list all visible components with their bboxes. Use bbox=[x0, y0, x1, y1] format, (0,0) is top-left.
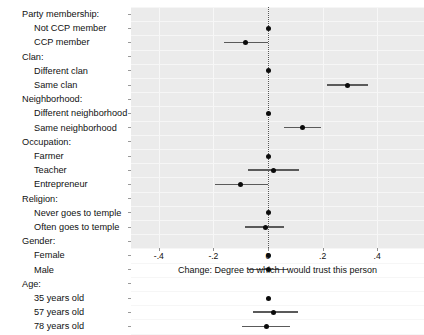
category-label: Different neighborhood bbox=[34, 106, 125, 120]
category-label: Different clan bbox=[34, 64, 125, 78]
category-label: Often goes to temple bbox=[34, 220, 125, 234]
estimate-row bbox=[131, 177, 424, 191]
estimate-row bbox=[131, 106, 424, 120]
row-tick-mark bbox=[128, 326, 131, 327]
estimate-row bbox=[131, 149, 424, 163]
estimate-row bbox=[131, 319, 424, 333]
estimate-row bbox=[131, 35, 424, 49]
estimate-row bbox=[131, 206, 424, 220]
x-axis-title: Change: Degree to which I would trust th… bbox=[131, 265, 424, 275]
x-axis-tick-label: -.2 bbox=[208, 251, 218, 261]
x-axis-tick-label: .2 bbox=[319, 251, 326, 261]
plot-panel bbox=[131, 7, 424, 248]
category-label: 35 years old bbox=[34, 291, 125, 305]
estimate-row bbox=[131, 305, 424, 319]
estimate-point bbox=[266, 68, 271, 73]
estimate-row bbox=[131, 21, 424, 35]
estimate-point bbox=[266, 210, 271, 215]
group-label: Party membership: bbox=[22, 7, 125, 21]
row-tick-mark bbox=[128, 283, 131, 284]
estimate-row bbox=[131, 64, 424, 78]
horizontal-gridline bbox=[131, 334, 424, 335]
x-axis-tick-label: 0 bbox=[266, 251, 271, 261]
estimate-point bbox=[243, 40, 248, 45]
group-header-row bbox=[131, 234, 424, 248]
estimate-row bbox=[131, 121, 424, 135]
category-label: Same clan bbox=[34, 78, 125, 92]
row-tick-mark bbox=[128, 298, 131, 299]
estimate-point bbox=[266, 296, 271, 301]
row-label-column: Party membership:Not CCP memberCCP membe… bbox=[0, 7, 131, 248]
group-label: Religion: bbox=[22, 192, 125, 206]
category-label: Never goes to temple bbox=[34, 206, 125, 220]
group-label: Age: bbox=[22, 277, 125, 291]
category-label: Farmer bbox=[34, 149, 125, 163]
estimate-point bbox=[271, 310, 276, 315]
x-axis-tick-label: -.4 bbox=[154, 251, 164, 261]
estimate-point bbox=[264, 324, 269, 329]
category-label: Entrepreneur bbox=[34, 177, 125, 191]
group-header-row bbox=[131, 277, 424, 291]
group-label: Occupation: bbox=[22, 135, 125, 149]
category-label: Not CCP member bbox=[34, 21, 125, 35]
group-header-row bbox=[131, 7, 424, 21]
group-header-row bbox=[131, 50, 424, 64]
estimate-row bbox=[131, 220, 424, 234]
category-label: 57 years old bbox=[34, 305, 125, 319]
group-label: Neighborhood: bbox=[22, 92, 125, 106]
estimate-row bbox=[131, 163, 424, 177]
group-header-row bbox=[131, 92, 424, 106]
category-label: 78 years old bbox=[34, 319, 125, 333]
estimate-point bbox=[266, 111, 271, 116]
x-axis-tick-label: .4 bbox=[374, 251, 381, 261]
category-label: Same neighborhood bbox=[34, 121, 125, 135]
category-label: Teacher bbox=[34, 163, 125, 177]
group-header-row bbox=[131, 192, 424, 206]
estimate-point bbox=[345, 83, 350, 88]
group-label: Gender: bbox=[22, 234, 125, 248]
estimate-row bbox=[131, 78, 424, 92]
estimate-row bbox=[131, 291, 424, 305]
group-header-row bbox=[131, 135, 424, 149]
row-tick-mark bbox=[128, 312, 131, 313]
category-label: Male bbox=[34, 263, 125, 277]
category-label: Female bbox=[34, 248, 125, 262]
estimate-point bbox=[266, 154, 271, 159]
estimate-point bbox=[263, 225, 268, 230]
estimate-point bbox=[266, 26, 271, 31]
estimate-point bbox=[271, 168, 276, 173]
group-label: Clan: bbox=[22, 50, 125, 64]
estimate-point bbox=[300, 125, 305, 130]
x-axis: -.4-.20.2.4 bbox=[131, 248, 424, 260]
estimate-point bbox=[238, 182, 243, 187]
category-label: CCP member bbox=[34, 35, 125, 49]
